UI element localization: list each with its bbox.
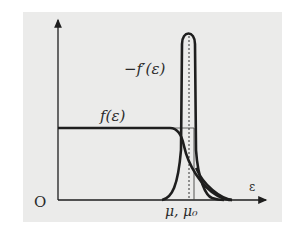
x-axis-label: ε bbox=[249, 180, 255, 194]
f-label: f(ε) bbox=[99, 107, 125, 125]
f-derivative-label: −f′(ε) bbox=[124, 60, 165, 78]
origin-label: O bbox=[34, 193, 46, 211]
f-derivative-peak bbox=[162, 34, 224, 201]
fermi-distribution-diagram: O ε f(ε) −f′(ε) μ, μ₀ bbox=[0, 0, 301, 236]
mu-tick-label: μ, μ₀ bbox=[165, 203, 198, 219]
